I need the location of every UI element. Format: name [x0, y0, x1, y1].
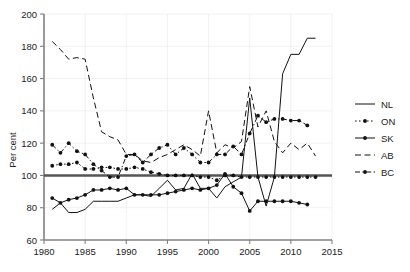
- legend-label-ON: ON: [381, 116, 395, 127]
- data-point-BC: [157, 146, 161, 150]
- data-point-BC: [215, 153, 219, 157]
- data-point-ON: [174, 174, 178, 178]
- legend-item-SK[interactable]: SK: [355, 133, 394, 144]
- data-point-BC: [124, 154, 128, 158]
- legend-item-NL[interactable]: NL: [355, 99, 393, 110]
- legend-label-AB: AB: [381, 150, 394, 161]
- data-point-BC: [174, 153, 178, 157]
- data-point-SK: [297, 201, 301, 205]
- data-point-SK: [116, 188, 120, 192]
- gridlines: [44, 14, 332, 240]
- data-point-SK: [157, 193, 161, 197]
- data-point-BC: [190, 153, 194, 157]
- data-point-SK: [166, 191, 170, 195]
- data-point-BC: [50, 143, 54, 147]
- data-point-BC: [59, 151, 63, 155]
- y-tick-label: 160: [21, 73, 37, 84]
- data-point-ON: [297, 175, 301, 179]
- data-point-ON: [281, 175, 285, 179]
- series-AB: [52, 41, 315, 162]
- data-point-SK: [133, 193, 137, 197]
- data-point-ON: [83, 167, 87, 171]
- y-tick-labels: 6080100120140160180200: [21, 9, 37, 246]
- y-tick-label: 180: [21, 41, 37, 52]
- data-point-SK: [190, 186, 194, 190]
- data-point-ON: [289, 175, 293, 179]
- data-point-ON: [264, 175, 268, 179]
- data-point-ON: [207, 175, 211, 179]
- data-point-BC: [116, 175, 120, 179]
- data-point-ON: [198, 175, 202, 179]
- data-point-ON: [91, 167, 95, 171]
- data-point-SK: [100, 188, 104, 192]
- data-point-BC: [91, 162, 95, 166]
- x-tick-label: 2000: [198, 246, 219, 257]
- y-tick-label: 140: [21, 105, 37, 116]
- data-point-BC: [207, 161, 211, 165]
- data-point-SK: [198, 188, 202, 192]
- data-point-SK: [83, 193, 87, 197]
- y-axis-title: Per cent: [7, 132, 18, 168]
- y-tick-label: 100: [21, 170, 37, 181]
- data-point-SK: [141, 193, 145, 197]
- y-tick-label: 60: [26, 235, 37, 246]
- data-point-BC: [108, 175, 112, 179]
- legend-label-NL: NL: [381, 99, 393, 110]
- legend-item-AB[interactable]: AB: [355, 150, 394, 161]
- y-tick-label: 200: [21, 9, 37, 20]
- data-point-ON: [240, 175, 244, 179]
- series-line-SK: [52, 174, 307, 211]
- y-tick-label: 80: [26, 202, 37, 213]
- data-point-SK: [215, 183, 219, 187]
- data-point-BC: [231, 144, 235, 148]
- legend-label-BC: BC: [381, 167, 394, 178]
- x-tick-labels: 19801985199019952000200520102015: [33, 246, 342, 257]
- data-point-BC: [141, 161, 145, 165]
- data-point-BC: [133, 153, 137, 157]
- data-point-BC: [297, 119, 301, 123]
- series-BC: [50, 114, 309, 179]
- x-tick-label: 2015: [321, 246, 342, 257]
- data-point-SK: [223, 172, 227, 176]
- data-point-SK: [231, 185, 235, 189]
- data-point-SK: [149, 193, 153, 197]
- data-point-ON: [256, 175, 260, 179]
- x-tick-label: 2010: [280, 246, 301, 257]
- data-point-SK: [289, 199, 293, 203]
- data-point-SK: [264, 199, 268, 203]
- x-tick-label: 1995: [157, 246, 178, 257]
- data-point-ON: [215, 178, 219, 182]
- data-point-BC: [289, 119, 293, 123]
- data-point-ON: [141, 167, 145, 171]
- data-point-BC: [223, 153, 227, 157]
- data-point-BC: [248, 132, 252, 136]
- data-point-ON: [166, 174, 170, 178]
- data-point-BC: [305, 123, 309, 127]
- data-point-ON: [116, 167, 120, 171]
- legend-label-SK: SK: [381, 133, 394, 144]
- data-point-BC: [281, 117, 285, 121]
- data-point-SK: [256, 199, 260, 203]
- line-chart: 19801985199019952000200520102015 6080100…: [0, 0, 410, 272]
- data-point-SK: [124, 186, 128, 190]
- legend-item-BC[interactable]: BC: [355, 167, 394, 178]
- axes-lines: [44, 14, 332, 240]
- data-point-BC: [182, 146, 186, 150]
- data-point-BC: [256, 114, 260, 118]
- data-point-BC: [166, 143, 170, 147]
- data-point-ON: [273, 175, 277, 179]
- data-point-ON: [108, 165, 112, 169]
- series-line-NL: [52, 38, 315, 212]
- legend-item-ON[interactable]: ON: [355, 116, 395, 127]
- series-NL: [52, 38, 315, 212]
- legend-marker-ON: [363, 119, 367, 123]
- series-line-BC: [52, 116, 307, 177]
- data-point-ON: [59, 162, 63, 166]
- chart-legend: NLONSKABBC: [355, 99, 395, 178]
- data-point-BC: [83, 153, 87, 157]
- data-point-BC: [67, 141, 71, 145]
- data-point-SK: [91, 188, 95, 192]
- data-point-BC: [264, 120, 268, 124]
- data-point-SK: [75, 196, 79, 200]
- data-point-ON: [50, 164, 54, 168]
